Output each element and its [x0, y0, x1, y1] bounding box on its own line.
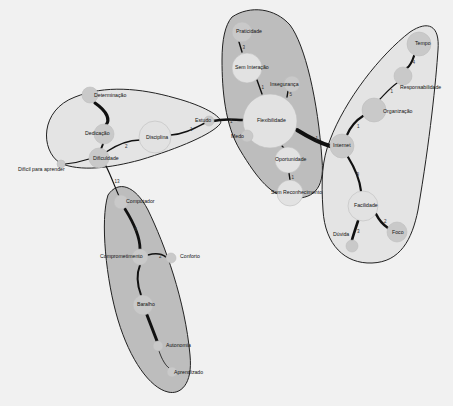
node-label-foco: Foco: [392, 229, 404, 235]
node-label-comprometimento: Comprometimento: [100, 253, 143, 259]
node-label-oportunidade: Oportunidade: [275, 156, 307, 162]
node-label-sem_interacao: Sem Interação: [235, 64, 269, 70]
network-diagram: 2111331511141192362 DeterminaçãoDedicaçã…: [0, 0, 453, 406]
node-label-conforto: Conforto: [180, 253, 200, 259]
node-label-dificuldade: Dificuldade: [93, 155, 119, 161]
node-autonomia[interactable]: [153, 341, 163, 351]
node-label-organizacao: Organização: [383, 108, 413, 114]
node-label-sem_reconhecimento: Sem Reconhecimento: [271, 189, 322, 195]
node-label-aprendizado: Aprendizado: [174, 369, 203, 375]
edge-oportunidade-sem_reconhecimento: [289, 173, 290, 180]
node-label-determinacao: Determinação: [94, 92, 126, 98]
node-responsabilidade[interactable]: [394, 67, 412, 85]
node-label-duvida: Dúvida: [333, 231, 349, 237]
node-label-tempo: Tempo: [415, 40, 431, 46]
node-label-responsabilidade: Responsabilidade: [400, 84, 441, 90]
edge-inseguranca-flexibilidade: [287, 91, 288, 97]
node-label-internet: Internet: [333, 142, 351, 148]
edge-weight-label: 13: [115, 179, 121, 184]
node-label-estudo: Estudo: [195, 117, 211, 123]
node-label-medo: Medo: [231, 133, 244, 139]
node-label-autonomia: Autonomia: [166, 342, 191, 348]
node-label-baralho: Baralho: [137, 301, 155, 307]
node-conforto[interactable]: [166, 253, 176, 263]
node-label-flexibilidade: Flexibilidade: [257, 117, 286, 123]
node-label-dificil: Difícil para aprender: [18, 166, 65, 172]
node-label-dedicacao: Dedicação: [85, 130, 110, 136]
node-label-praticidade: Praticidade: [236, 28, 262, 34]
node-duvida[interactable]: [346, 240, 358, 252]
node-label-computador: Computador: [126, 198, 155, 204]
node-label-facilidade: Facilidade: [354, 202, 378, 208]
node-label-inseguranca: Insegurança: [270, 81, 299, 87]
node-label-disciplina: Disciplina: [146, 134, 168, 140]
